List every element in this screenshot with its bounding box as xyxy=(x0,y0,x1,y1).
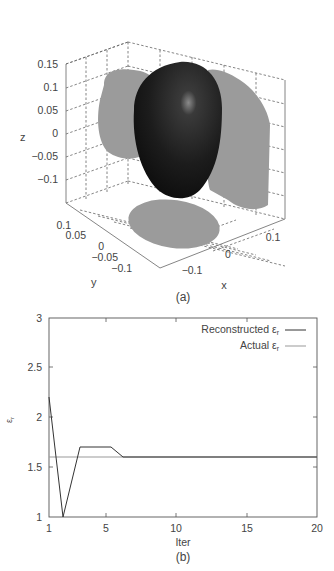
svg-text:εr: εr xyxy=(4,417,15,423)
y-tick: 0.05 xyxy=(66,229,87,241)
y-axis-label: y xyxy=(91,276,97,288)
y-tick: 2 xyxy=(36,411,42,423)
z-tick: −0.05 xyxy=(31,150,58,162)
legend-actual-label: Actual εr xyxy=(240,339,280,352)
y-tick: −0.1 xyxy=(111,262,132,274)
y-axis: 0.1 0.05 0 −0.05 −0.1 y xyxy=(56,219,132,288)
plot-b-line: 3 2.5 2 1.5 1 εr 1 5 10 15 20 Iter (b) R… xyxy=(4,312,323,564)
caption-a: (a) xyxy=(176,290,191,304)
caption-b: (b) xyxy=(176,550,191,564)
z-tick: 0.15 xyxy=(38,58,59,70)
z-axis-label: z xyxy=(20,131,26,143)
y-tick: 3 xyxy=(36,312,42,324)
z-tick: −0.1 xyxy=(37,173,58,185)
x-tick: 5 xyxy=(103,522,109,534)
y-tick: 1 xyxy=(36,511,42,523)
z-axis: 0.15 0.1 0.05 0 −0.05 −0.1 z xyxy=(20,58,58,185)
x-tick: 10 xyxy=(170,522,182,534)
projection-xy xyxy=(125,194,223,254)
x-axis-label: x xyxy=(221,279,227,291)
z-tick: 0.1 xyxy=(43,81,58,93)
legend-reconstructed-label: Reconstructed εr xyxy=(201,323,279,336)
z-tick: 0 xyxy=(52,127,58,139)
legend: Reconstructed εr Actual εr xyxy=(201,323,306,352)
plot-a-3d: 0.15 0.1 0.05 0 −0.05 −0.1 z 0.1 0.05 0 … xyxy=(20,42,285,304)
x-tick: 20 xyxy=(311,522,323,534)
x-tick: 1 xyxy=(46,522,52,534)
z-tick: 0.05 xyxy=(38,104,59,116)
x-tick: −0.1 xyxy=(182,264,203,276)
y-tick: 2.5 xyxy=(27,361,42,373)
x-axis-label: Iter xyxy=(175,536,191,548)
y-axis-label: εr xyxy=(4,417,15,423)
figure: 0.15 0.1 0.05 0 −0.05 −0.1 z 0.1 0.05 0 … xyxy=(0,0,334,571)
x-tick: 0 xyxy=(225,248,231,260)
x-tick: 15 xyxy=(241,522,253,534)
y-tick: 1.5 xyxy=(27,461,42,473)
x-tick: 0.1 xyxy=(266,231,281,243)
